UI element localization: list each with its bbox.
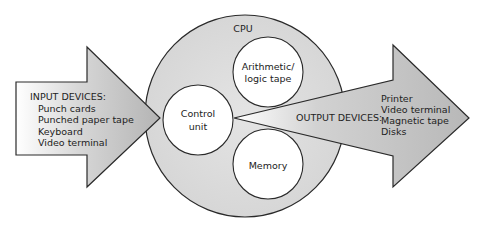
output-device-item: Video terminal — [381, 104, 450, 115]
input-device-item: Punch cards — [38, 103, 96, 114]
input-device-item: Keyboard — [38, 126, 83, 137]
cpu-io-diagram: CPU Control unit Arithmetic/ logic tape … — [0, 0, 483, 229]
alu-circle — [233, 37, 303, 107]
output-devices-heading: OUTPUT DEVICES: — [296, 112, 382, 123]
output-device-item: Printer — [381, 93, 413, 104]
output-device-item: Magnetic tape — [381, 115, 449, 126]
input-device-item: Video terminal — [38, 137, 107, 148]
output-device-item: Disks — [381, 126, 406, 137]
cpu-label: CPU — [233, 23, 252, 34]
memory-label: Memory — [249, 160, 288, 171]
alu-label-line1: Arithmetic/ — [242, 61, 295, 72]
alu-label-line2: logic tape — [245, 73, 292, 84]
control-unit-label-line2: unit — [189, 121, 208, 132]
control-unit-circle — [163, 85, 233, 155]
input-devices-heading: INPUT DEVICES: — [30, 91, 106, 102]
control-unit-label-line1: Control — [181, 108, 215, 119]
input-device-item: Punched paper tape — [38, 114, 134, 125]
